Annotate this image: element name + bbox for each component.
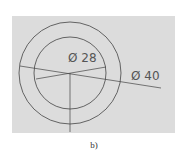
- inner-diameter-leader: [36, 67, 106, 79]
- concentric-circles-drawing: Ø 28 Ø 40: [0, 0, 188, 157]
- outer-diameter-label: Ø 40: [131, 69, 160, 83]
- figure-caption: b): [0, 140, 188, 150]
- inner-diameter-label: Ø 28: [68, 51, 97, 65]
